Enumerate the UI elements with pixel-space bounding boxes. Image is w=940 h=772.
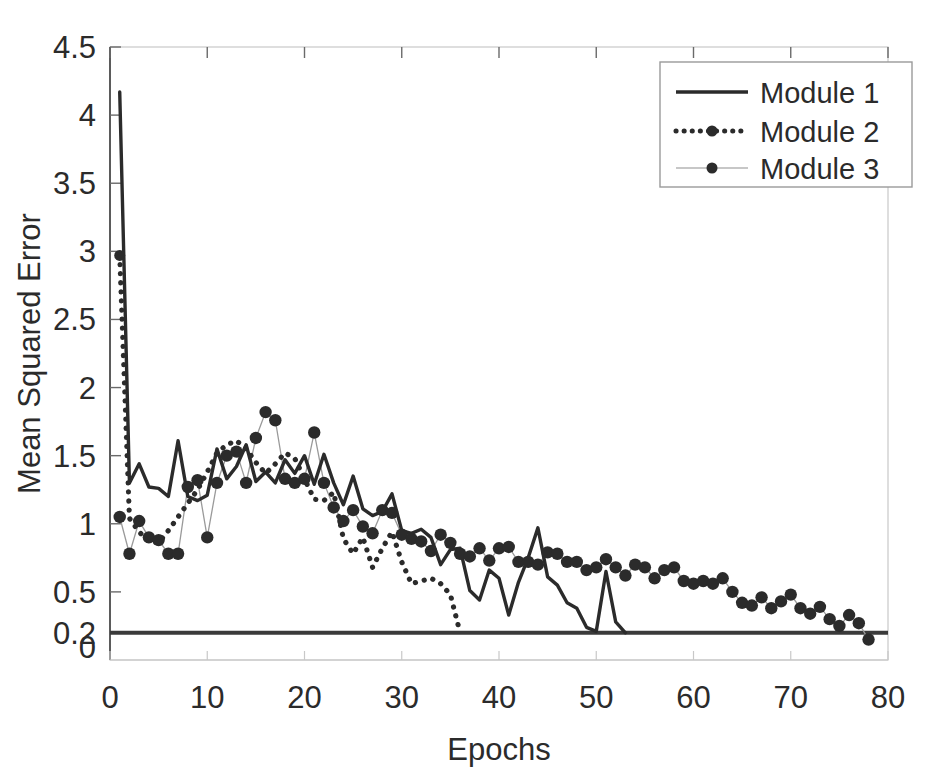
module-3-data-point xyxy=(240,477,252,489)
module-2-data-point xyxy=(114,250,125,261)
x-tick-label: 40 xyxy=(482,680,516,715)
legend-label-module-1: Module 1 xyxy=(760,77,879,109)
module-3-data-point xyxy=(814,601,826,613)
module-3-data-point xyxy=(308,426,320,438)
legend-marker-module-3 xyxy=(707,163,718,174)
module-3-data-point xyxy=(250,432,262,444)
module-3-data-point xyxy=(123,548,135,560)
x-tick-label: 80 xyxy=(871,680,905,715)
series-module-2-markers xyxy=(114,250,125,261)
legend[interactable]: Module 1 Module 2 Module 3 xyxy=(660,62,912,187)
y-tick-label: 3 xyxy=(79,234,96,269)
module-3-data-point xyxy=(327,501,339,513)
y-tick-label: 1.5 xyxy=(53,439,96,474)
module-3-data-point xyxy=(464,550,476,562)
y-tick-label: 4 xyxy=(79,98,96,133)
module-3-data-point xyxy=(503,541,515,553)
y-tick-label: 3.5 xyxy=(53,166,96,201)
legend-marker-module-2 xyxy=(707,126,718,137)
module-3-data-point xyxy=(191,474,203,486)
module-3-data-point xyxy=(843,609,855,621)
x-tick-label: 30 xyxy=(385,680,419,715)
y-tick-label: 2 xyxy=(79,371,96,406)
x-tick-label: 50 xyxy=(579,680,613,715)
module-3-data-point xyxy=(337,515,349,527)
legend-label-module-2: Module 2 xyxy=(760,116,879,148)
module-3-data-point xyxy=(473,542,485,554)
module-3-data-point xyxy=(862,633,874,645)
y-tick-label: 0.2 xyxy=(53,616,96,651)
module-3-data-point xyxy=(619,569,631,581)
y-axis-title: Mean Squared Error xyxy=(12,213,47,494)
module-3-data-point xyxy=(230,445,242,457)
x-tick-label: 70 xyxy=(774,680,808,715)
module-3-data-point xyxy=(785,588,797,600)
x-tick-label: 10 xyxy=(190,680,224,715)
module-3-data-point xyxy=(347,504,359,516)
module-3-data-point xyxy=(600,553,612,565)
module-3-data-point xyxy=(415,535,427,547)
module-3-data-point xyxy=(639,561,651,573)
y-tick-label: 2.5 xyxy=(53,302,96,337)
x-tick-label: 20 xyxy=(287,680,321,715)
module-3-data-point xyxy=(551,548,563,560)
y-tick-label: 4.5 xyxy=(53,30,96,65)
module-3-data-point xyxy=(201,531,213,543)
module-3-data-point xyxy=(269,414,281,426)
module-3-data-point xyxy=(259,406,271,418)
y-tick-label: 0.5 xyxy=(53,575,96,610)
x-axis-tick-labels: 01020304050607080 xyxy=(101,680,905,715)
module-3-data-point xyxy=(425,545,437,557)
legend-label-module-3: Module 3 xyxy=(760,153,879,185)
module-3-data-point xyxy=(386,507,398,519)
module-3-data-point xyxy=(571,556,583,568)
mse-line-chart: 01020304050607080 00.20.511.522.533.544.… xyxy=(0,0,940,772)
figure-container: 01020304050607080 00.20.511.522.533.544.… xyxy=(0,0,940,772)
module-3-data-point xyxy=(726,586,738,598)
module-3-data-point xyxy=(532,558,544,570)
module-3-data-point xyxy=(853,617,865,629)
module-3-data-point xyxy=(434,528,446,540)
module-3-data-point xyxy=(483,554,495,566)
module-3-data-point xyxy=(648,572,660,584)
module-3-data-point xyxy=(668,561,680,573)
x-tick-label: 60 xyxy=(676,680,710,715)
module-3-data-point xyxy=(133,515,145,527)
module-3-data-point xyxy=(114,511,126,523)
module-3-data-point xyxy=(444,537,456,549)
module-3-data-point xyxy=(172,548,184,560)
module-3-data-point xyxy=(746,599,758,611)
x-tick-label: 0 xyxy=(101,680,118,715)
module-3-data-point xyxy=(298,473,310,485)
module-3-data-point xyxy=(590,561,602,573)
module-3-data-point xyxy=(716,572,728,584)
module-3-data-point xyxy=(366,527,378,539)
module-3-data-point xyxy=(152,534,164,546)
module-3-data-point xyxy=(610,561,622,573)
module-3-data-point xyxy=(833,620,845,632)
module-3-data-point xyxy=(755,591,767,603)
module-3-data-point xyxy=(211,477,223,489)
x-axis-title: Epochs xyxy=(447,732,550,767)
module-3-data-point xyxy=(318,477,330,489)
y-tick-label: 1 xyxy=(79,507,96,542)
